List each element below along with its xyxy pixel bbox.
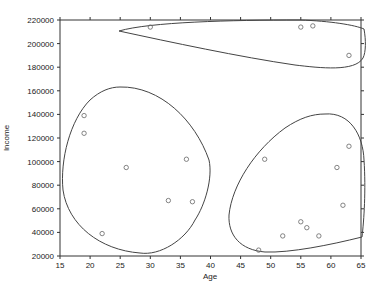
cluster-contours (62, 20, 365, 253)
data-point-marker (347, 53, 351, 57)
data-point-marker (100, 231, 104, 235)
x-tick-label: 20 (86, 261, 95, 270)
contour-young (62, 87, 210, 253)
data-point-marker (82, 113, 86, 117)
y-ticks: 2000040000600008000010000012000014000016… (27, 16, 364, 261)
data-point-marker (166, 198, 170, 202)
data-point-marker (190, 200, 194, 204)
x-tick-label: 45 (236, 261, 245, 270)
data-point-marker (262, 157, 266, 161)
data-point-marker (347, 144, 351, 148)
x-tick-label: 15 (56, 261, 65, 270)
y-tick-label: 20000 (32, 252, 55, 261)
contour-high-income (119, 20, 365, 68)
y-axis-title: Income (2, 124, 11, 151)
data-point-marker (82, 131, 86, 135)
x-axis-title: Age (203, 272, 218, 281)
y-tick-label: 40000 (32, 228, 55, 237)
data-points (82, 24, 351, 253)
data-point-marker (124, 165, 128, 169)
data-point-marker (299, 25, 303, 29)
data-point-marker (281, 234, 285, 238)
scatter-chart: 1520253035404550556065 20000400006000080… (0, 0, 392, 292)
x-tick-label: 25 (116, 261, 125, 270)
y-tick-label: 200000 (27, 40, 54, 49)
x-tick-label: 30 (146, 261, 155, 270)
contour-older (229, 114, 365, 252)
y-tick-label: 180000 (27, 63, 54, 72)
y-tick-label: 80000 (32, 181, 55, 190)
y-tick-label: 160000 (27, 87, 54, 96)
y-tick-label: 60000 (32, 205, 55, 214)
data-point-marker (311, 24, 315, 28)
data-point-marker (299, 220, 303, 224)
x-tick-label: 35 (176, 261, 185, 270)
axes: 1520253035404550556065 20000400006000080… (27, 16, 366, 270)
x-ticks: 1520253035404550556065 (56, 17, 366, 270)
x-tick-label: 50 (266, 261, 275, 270)
data-point-marker (184, 157, 188, 161)
x-tick-label: 60 (326, 261, 335, 270)
data-point-marker (305, 225, 309, 229)
y-tick-label: 120000 (27, 134, 54, 143)
data-point-marker (335, 165, 339, 169)
x-tick-label: 65 (357, 261, 366, 270)
x-tick-label: 55 (296, 261, 305, 270)
y-tick-label: 140000 (27, 110, 54, 119)
y-tick-label: 220000 (27, 16, 54, 25)
data-point-marker (317, 234, 321, 238)
x-tick-label: 40 (206, 261, 215, 270)
y-tick-label: 100000 (27, 158, 54, 167)
data-point-marker (341, 203, 345, 207)
